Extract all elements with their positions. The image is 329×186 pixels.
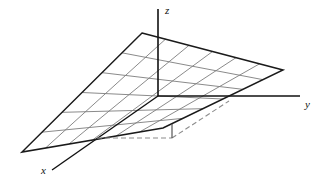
x-axis-label: x: [40, 164, 46, 176]
plane-grid-line: [42, 118, 183, 132]
plane-grid-lines-v: [42, 53, 263, 132]
three-d-plane-diagram: x y z: [0, 0, 329, 186]
plane-grid-line: [122, 53, 263, 80]
plane-grid-line: [62, 109, 203, 113]
z-axis-label: z: [164, 4, 170, 16]
plane-grid-line: [102, 73, 243, 90]
y-axis-label: y: [304, 98, 310, 110]
